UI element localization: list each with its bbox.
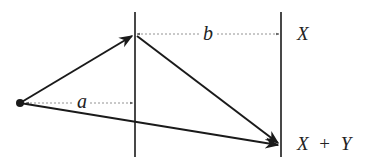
label-x-plus-y-op: + [319,133,330,154]
vector-arrow-y [137,36,278,143]
label-b: b [203,22,213,44]
vector-diagram: a b X X + Y [0,0,371,164]
label-x-plus-y-x: X [296,133,310,154]
label-x-plus-y-y: Y [341,133,354,154]
label-x: X [296,23,310,44]
label-a: a [77,90,87,112]
vector-arrow-to-x-plus-y [20,103,278,145]
label-x-plus-y: X + Y [296,133,354,154]
origin-dot [16,99,24,107]
